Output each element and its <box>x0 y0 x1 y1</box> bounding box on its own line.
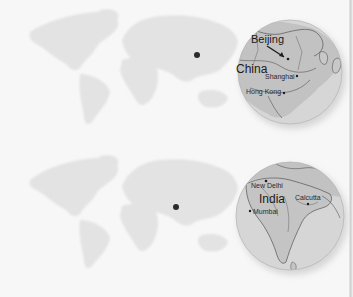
mumbai-label: Mumbai <box>253 208 278 215</box>
shanghai-dot <box>296 75 298 77</box>
china-location-marker <box>194 52 200 58</box>
world-map-1 <box>0 0 353 148</box>
hong-kong-dot <box>283 92 285 94</box>
calcutta-dot <box>307 203 309 205</box>
hong-kong-label: Hong Kong <box>246 88 281 95</box>
mumbai-dot <box>249 210 251 212</box>
beijing-dot <box>287 58 290 61</box>
india-map-panel: New Delhi India Mumbai Calcutta <box>0 148 353 296</box>
world-map-2 <box>0 148 353 297</box>
china-map-panel: Beijing China Shanghai Hong Kong <box>0 0 353 148</box>
china-label: China <box>236 63 267 75</box>
india-label: India <box>259 193 285 205</box>
world-landmass <box>29 9 238 124</box>
world-landmass <box>29 155 238 268</box>
shanghai-label: Shanghai <box>265 73 295 80</box>
beijing-label: Beijing <box>251 34 284 45</box>
calcutta-label: Calcutta <box>295 194 321 201</box>
page-edge-divider <box>349 0 353 297</box>
new-delhi-label: New Delhi <box>251 182 283 189</box>
india-location-marker <box>173 204 179 210</box>
